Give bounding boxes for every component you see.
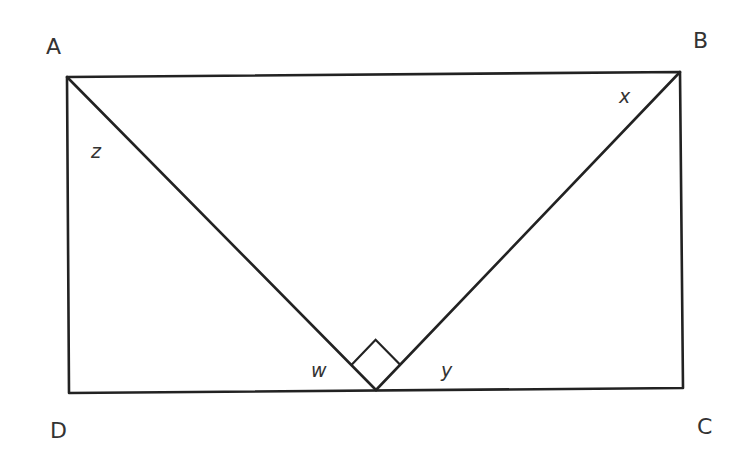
- segment-be: [376, 72, 680, 390]
- angle-label-z: z: [90, 140, 102, 162]
- segment-ae: [67, 77, 376, 390]
- point-label-a: A: [46, 34, 61, 59]
- rectangle-abcd: [67, 72, 683, 393]
- point-label-b: B: [693, 28, 708, 53]
- angle-label-w: w: [311, 359, 327, 381]
- point-label-d: D: [50, 418, 67, 443]
- geometry-diagram: A B C D z x w y: [0, 0, 730, 467]
- angle-label-x: x: [618, 85, 631, 107]
- angle-label-y: y: [440, 359, 453, 381]
- diagram-svg: A B C D z x w y: [0, 0, 730, 467]
- right-angle-marker: [351, 340, 400, 365]
- point-label-c: C: [697, 414, 712, 439]
